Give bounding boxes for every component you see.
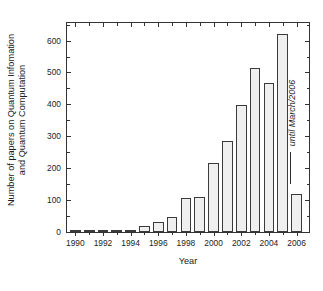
x-tick-1994 [131,232,132,236]
x-tick-1996 [158,232,159,236]
x-tick-label-2002: 2002 [232,238,251,248]
plot-area: 0100200300400500600199019921994199619982… [66,22,310,233]
y-tick-50 [67,216,70,217]
annotation-leader-line [290,152,291,184]
y-tick-right-100 [305,200,309,201]
x-tick-label-1992: 1992 [94,238,113,248]
x-tick-1999 [200,232,201,235]
y-axis-title: Number of papers on Quantum Infomation a… [0,0,34,240]
bar-1996 [153,222,164,232]
y-tick-right-500 [305,72,309,73]
x-tick-top-1998 [186,23,187,27]
x-tick-top-2004 [269,23,270,27]
y-tick-200 [67,168,71,169]
x-tick-2003 [255,232,256,235]
annotation-until-march-2006: until March/2006 [282,74,300,186]
y-tick-400 [67,104,71,105]
y-tick-right-400 [305,104,309,105]
x-tick-label-2006: 2006 [287,238,306,248]
bar-1997 [167,217,178,232]
annotation-label: until March/2006 [287,67,297,159]
x-tick-label-2004: 2004 [260,238,279,248]
x-tick-label-2000: 2000 [204,238,223,248]
x-tick-top-1994 [131,23,132,27]
x-tick-top-1990 [75,23,76,27]
x-tick-1997 [172,232,173,235]
bar-2006 [291,194,302,232]
y-tick-label-0: 0 [56,227,61,237]
x-tick-2002 [241,232,242,236]
y-tick-150 [67,184,70,185]
x-tick-top-2002 [241,23,242,27]
y-tick-250 [67,152,70,153]
x-tick-top-2006 [297,23,298,27]
x-tick-2005 [283,232,284,235]
y-tick-550 [67,57,70,58]
bar-series [67,23,309,232]
y-tick-label-100: 100 [47,195,61,205]
y-axis-title-line-1: Number of papers on Quantum Infomation [6,34,17,206]
x-tick-1993 [117,232,118,235]
x-tick-1990 [75,232,76,236]
x-tick-1991 [89,232,90,235]
x-tick-label-1990: 1990 [66,238,85,248]
y-tick-label-600: 600 [47,36,61,46]
x-tick-top-2005 [283,23,284,26]
x-tick-label-1994: 1994 [121,238,140,248]
y-tick-label-500: 500 [47,67,61,77]
bar-1999 [194,197,205,232]
x-tick-2006 [297,232,298,236]
x-tick-1998 [186,232,187,236]
y-tick-label-300: 300 [47,131,61,141]
x-tick-label-1996: 1996 [149,238,168,248]
y-tick-450 [67,88,70,89]
y-tick-right-150 [307,184,310,185]
y-tick-label-400: 400 [47,99,61,109]
x-tick-top-2001 [227,23,228,26]
x-tick-top-1991 [89,23,90,26]
y-tick-right-650 [307,25,310,26]
x-tick-top-1992 [103,23,104,27]
bar-2001 [222,141,233,232]
y-tick-600 [67,41,71,42]
x-tick-2000 [214,232,215,236]
y-tick-right-0 [305,232,309,233]
y-tick-right-550 [307,57,310,58]
y-tick-right-300 [305,136,309,137]
y-tick-300 [67,136,71,137]
x-tick-2004 [269,232,270,236]
x-tick-top-1993 [117,23,118,26]
y-axis-title-line-2: and Quantum Computation [17,34,28,206]
x-tick-top-1996 [158,23,159,27]
x-tick-top-2000 [214,23,215,27]
y-tick-right-450 [307,88,310,89]
x-tick-top-2003 [255,23,256,26]
y-tick-650 [67,25,70,26]
x-tick-2001 [227,232,228,235]
y-tick-500 [67,72,71,73]
bar-2000 [208,163,219,232]
x-tick-1995 [144,232,145,235]
x-tick-top-1997 [172,23,173,26]
y-tick-0 [67,232,71,233]
y-tick-100 [67,200,71,201]
x-tick-top-1999 [200,23,201,26]
y-tick-label-200: 200 [47,163,61,173]
x-tick-top-1995 [144,23,145,26]
x-axis-title: Year [66,256,310,266]
y-tick-right-350 [307,120,310,121]
bar-1998 [181,198,192,232]
y-tick-right-200 [305,168,309,169]
y-tick-right-600 [305,41,309,42]
y-tick-right-250 [307,152,310,153]
bar-2002 [236,105,247,232]
bar-2003 [250,68,261,232]
x-tick-1992 [103,232,104,236]
x-tick-label-1998: 1998 [177,238,196,248]
chart-figure: Number of papers on Quantum Infomation a… [0,0,323,291]
y-tick-350 [67,120,70,121]
bar-2004 [264,83,275,232]
y-tick-right-50 [307,216,310,217]
